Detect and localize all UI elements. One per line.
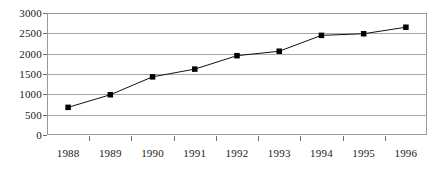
line-chart: 050010001500200025003000 198819891990199… [0, 0, 440, 180]
data-point-marker [361, 31, 367, 36]
data-point-marker [65, 105, 71, 111]
data-point-marker [108, 92, 114, 98]
data-point-marker [403, 24, 409, 30]
data-point-marker [234, 53, 240, 59]
series-markers [65, 24, 408, 110]
data-series [0, 0, 440, 180]
data-point-marker [192, 66, 198, 72]
data-point-marker [276, 48, 282, 54]
series-line [68, 27, 406, 107]
data-point-marker [150, 74, 156, 80]
data-point-marker [319, 33, 325, 39]
